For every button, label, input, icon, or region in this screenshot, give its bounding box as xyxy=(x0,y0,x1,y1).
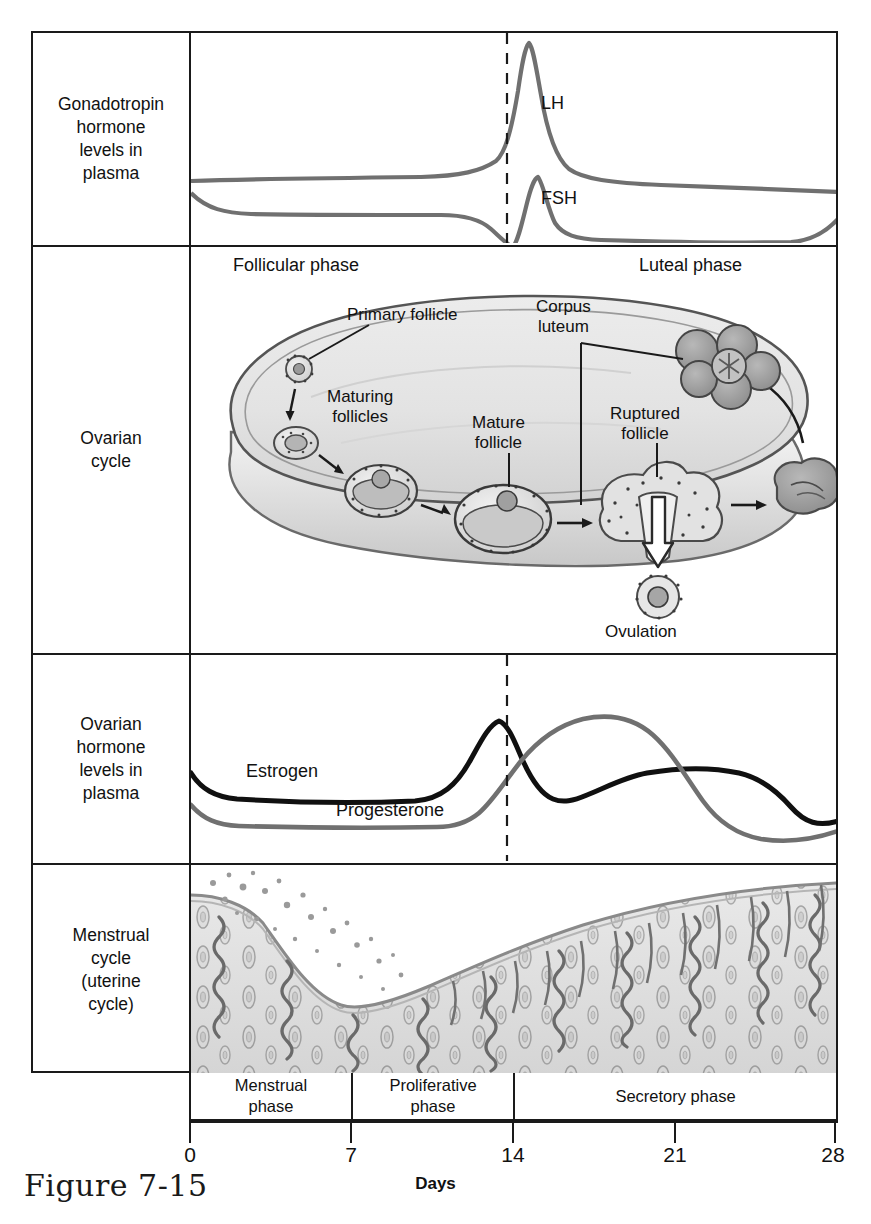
phase-menstrual: Menstrual phase xyxy=(191,1073,353,1119)
label-luteal-phase: Luteal phase xyxy=(639,255,742,277)
figure-caption: Figure 7-15 xyxy=(24,1168,207,1203)
curve-label-lh: LH xyxy=(541,93,564,114)
early-corpus-luteum xyxy=(775,459,836,514)
label-corpus-luteum: Corpus luteum xyxy=(536,297,591,338)
label-follicular-phase: Follicular phase xyxy=(233,255,359,277)
endometrium-drawing xyxy=(191,865,836,1073)
released-ovum xyxy=(635,574,682,619)
phase-menstrual-label: Menstrual phase xyxy=(235,1075,307,1116)
label-ovulation: Ovulation xyxy=(605,622,677,642)
axis-tick-0 xyxy=(189,1121,191,1143)
mature-follicle-drawing xyxy=(455,484,551,553)
axis-tick-7 xyxy=(350,1121,352,1143)
row-menstrual-cycle: Menstrual cycle (uterine cycle) xyxy=(33,865,836,1075)
row-ovarian-hormone: Ovarian hormone levels in plasma Estroge… xyxy=(33,655,836,865)
menstrual-cycle-figure: Gonadotropin hormone levels in plasma LH… xyxy=(0,0,871,1224)
phase-secretory-label: Secretory phase xyxy=(615,1086,735,1107)
axis-label-14: 14 xyxy=(501,1143,524,1167)
label-primary-follicle: Primary follicle xyxy=(347,305,458,325)
row-label-menstrual-cycle: Menstrual cycle (uterine cycle) xyxy=(33,865,191,1075)
ovarian-hormone-plot: Estrogen Progesterone xyxy=(191,655,836,863)
axis-label-21: 21 xyxy=(663,1143,686,1167)
curve-label-estrogen: Estrogen xyxy=(246,761,318,782)
axis-label-7: 7 xyxy=(345,1143,357,1167)
day-axis: 0 7 14 21 28 xyxy=(189,1121,838,1179)
phase-proliferative: Proliferative phase xyxy=(353,1073,515,1119)
curve-label-fsh: FSH xyxy=(541,188,577,209)
gonadotropin-curves xyxy=(191,33,836,243)
gonadotropin-plot: LH FSH xyxy=(191,33,836,245)
phase-proliferative-label: Proliferative phase xyxy=(389,1075,476,1116)
figure-grid: Gonadotropin hormone levels in plasma LH… xyxy=(31,31,838,1073)
endometrium-illustration xyxy=(191,865,836,1075)
axis-tick-21 xyxy=(674,1121,676,1143)
phase-secretory: Secretory phase xyxy=(515,1073,836,1119)
row-label-text: Ovarian cycle xyxy=(80,427,141,473)
ovary-illustration: Follicular phase Luteal phase Primary fo… xyxy=(191,247,836,653)
label-mature-follicle: Mature follicle xyxy=(472,413,525,454)
row-label-text: Gonadotropin hormone levels in plasma xyxy=(58,93,164,185)
row-ovarian-cycle: Ovarian cycle xyxy=(33,247,836,655)
maturing-follicle-1 xyxy=(274,427,318,459)
curve-label-progesterone: Progesterone xyxy=(336,800,444,821)
axis-label-28: 28 xyxy=(821,1143,844,1167)
axis-label-0: 0 xyxy=(184,1143,196,1167)
axis-tick-14 xyxy=(512,1121,514,1143)
label-maturing-follicles: Maturing follicles xyxy=(327,387,393,428)
label-ruptured-follicle: Ruptured follicle xyxy=(610,404,680,445)
row-label-text: Menstrual cycle (uterine cycle) xyxy=(73,924,150,1016)
phase-bar: Menstrual phase Proliferative phase Secr… xyxy=(189,1073,838,1121)
maturing-follicle-2 xyxy=(345,465,417,518)
ovarian-hormone-curves xyxy=(191,655,836,861)
row-label-text: Ovarian hormone levels in plasma xyxy=(76,713,145,805)
row-label-ovarian-cycle: Ovarian cycle xyxy=(33,247,191,653)
row-label-ovarian-hormone: Ovarian hormone levels in plasma xyxy=(33,655,191,863)
axis-tick-28 xyxy=(834,1121,836,1143)
row-gonadotropin: Gonadotropin hormone levels in plasma LH… xyxy=(33,33,836,247)
row-label-gonadotropin: Gonadotropin hormone levels in plasma xyxy=(33,33,191,245)
